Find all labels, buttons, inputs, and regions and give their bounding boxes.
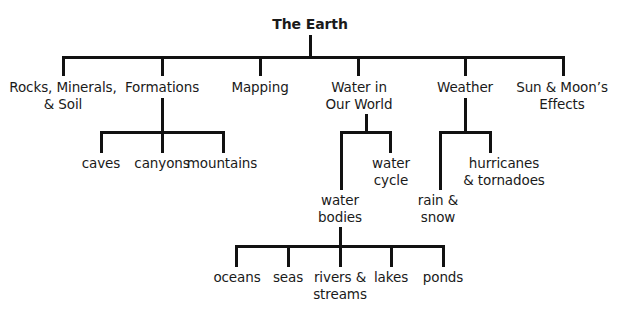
node-seas: seas <box>273 269 303 286</box>
node-label-line: bodies <box>318 209 362 226</box>
node-label-line: mountains <box>187 155 258 172</box>
connector-line <box>62 56 65 76</box>
node-sun-moon-effects: Sun & Moon’s Effects <box>516 79 608 113</box>
node-label-line: Water in <box>326 79 393 96</box>
node-label-line: lakes <box>374 269 408 286</box>
node-lakes: lakes <box>374 269 408 286</box>
connector-line <box>442 245 445 267</box>
node-the-earth: The Earth <box>272 16 348 33</box>
node-label-line: Weather <box>437 79 493 96</box>
node-mapping: Mapping <box>231 79 288 96</box>
connector-line <box>390 245 393 267</box>
node-water-in-our-world: Water in Our World <box>326 79 393 113</box>
connector-line <box>62 56 565 59</box>
node-rain-snow: rain & snow <box>418 192 458 226</box>
connector-line <box>100 131 103 153</box>
node-rivers-streams: rivers & streams <box>313 269 367 303</box>
node-label-line: hurricanes <box>463 155 545 172</box>
connector-line <box>464 56 467 76</box>
node-label-line: Sun & Moon’s <box>516 79 608 96</box>
connector-line <box>439 131 442 190</box>
node-caves: caves <box>82 155 121 172</box>
node-label-line: Our World <box>326 96 393 113</box>
node-rocks-minerals-soil: Rocks, Minerals, & Soil <box>9 79 116 113</box>
connector-line <box>464 98 467 133</box>
node-label-line: streams <box>313 286 367 303</box>
node-label-line: Effects <box>516 96 608 113</box>
node-water-bodies: water bodies <box>318 192 362 226</box>
node-label-line: water <box>372 155 410 172</box>
connector-line <box>489 131 492 153</box>
node-formations: Formations <box>125 79 199 96</box>
node-label-line: Mapping <box>231 79 288 96</box>
node-label-line: Rocks, Minerals, <box>9 79 116 96</box>
node-label-line: seas <box>273 269 303 286</box>
connector-line <box>389 131 392 153</box>
connector-line <box>259 56 262 76</box>
connector-line <box>340 131 343 190</box>
connector-line <box>161 56 164 76</box>
connector-line <box>339 245 342 267</box>
node-label-line: caves <box>82 155 121 172</box>
connector-line <box>439 131 492 134</box>
connector-line <box>222 131 225 153</box>
node-water-cycle: water cycle <box>372 155 410 189</box>
node-label-line: & Soil <box>9 96 116 113</box>
node-mountains: mountains <box>187 155 258 172</box>
node-label-line: Formations <box>125 79 199 96</box>
node-label-line: oceans <box>213 269 260 286</box>
node-label-line: canyons <box>134 155 189 172</box>
connector-line <box>340 131 392 134</box>
node-hurricanes-tornadoes: hurricanes & tornadoes <box>463 155 545 189</box>
connector-line <box>562 56 565 76</box>
node-label-line: snow <box>418 209 458 226</box>
node-ponds: ponds <box>423 269 464 286</box>
node-oceans: oceans <box>213 269 260 286</box>
node-label-line: water <box>318 192 362 209</box>
connector-line <box>339 227 342 247</box>
node-label-line: cycle <box>372 172 410 189</box>
connector-line <box>161 131 164 153</box>
node-weather: Weather <box>437 79 493 96</box>
connector-line <box>309 35 312 57</box>
connector-line <box>357 56 360 76</box>
node-label-line: rain & <box>418 192 458 209</box>
node-label-line: & tornadoes <box>463 172 545 189</box>
node-label-line: ponds <box>423 269 464 286</box>
concept-tree-diagram: The Earth Rocks, Minerals, & Soil Format… <box>0 0 623 310</box>
node-label-line: rivers & <box>313 269 367 286</box>
connector-line <box>287 245 290 267</box>
node-label: The Earth <box>272 16 348 33</box>
connector-line <box>161 98 164 133</box>
connector-line <box>235 245 238 267</box>
node-canyons: canyons <box>134 155 189 172</box>
